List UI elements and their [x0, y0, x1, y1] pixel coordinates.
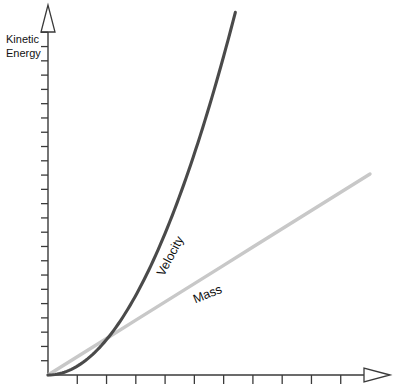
- series-label-mass: Mass: [191, 282, 224, 306]
- kinetic-energy-chart: VelocityMass Kinetic Energy: [0, 0, 402, 392]
- x-axis-arrow-icon: [364, 368, 390, 382]
- series-line-velocity: [48, 12, 235, 375]
- y-axis-title-line1: Kinetic: [6, 33, 40, 45]
- y-axis-ticks: [41, 32, 48, 360]
- y-axis-title-line2: Energy: [6, 47, 41, 59]
- series-label-velocity: Velocity: [154, 233, 187, 278]
- y-axis-arrow-icon: [41, 5, 55, 32]
- series-annotations: VelocityMass: [154, 233, 224, 306]
- series-line-mass: [48, 174, 370, 375]
- chart-canvas: VelocityMass Kinetic Energy: [0, 0, 402, 392]
- x-axis-ticks: [77, 375, 340, 384]
